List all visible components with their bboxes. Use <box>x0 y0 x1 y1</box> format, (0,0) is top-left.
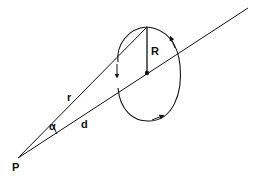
ring-back-lower <box>118 88 150 121</box>
arrow-up-icon <box>171 38 175 48</box>
geometry-diagram: P r d α R <box>0 0 255 180</box>
label-r: r <box>67 91 72 103</box>
center-dot <box>145 71 149 75</box>
label-d: d <box>81 118 88 130</box>
slant-line-r <box>18 27 147 158</box>
label-alpha: α <box>49 120 56 132</box>
label-R: R <box>151 45 159 57</box>
label-P: P <box>12 161 19 173</box>
ring-front <box>147 27 180 121</box>
ring-back-upper <box>118 27 147 62</box>
